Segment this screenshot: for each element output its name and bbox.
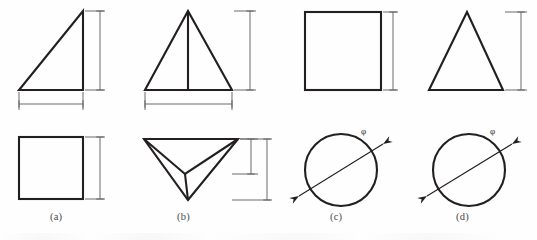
diameter-symbol-d: φ <box>490 126 495 136</box>
diameter-symbol-c: φ <box>361 126 366 136</box>
figure-drawing-canvas <box>0 0 537 240</box>
page-bottom-artifact <box>0 233 537 240</box>
caption-label-c: (c) <box>330 211 342 222</box>
caption-label-a: (a) <box>50 211 62 222</box>
caption-label-b: (b) <box>177 211 190 222</box>
caption-label-d: (d) <box>456 211 469 222</box>
